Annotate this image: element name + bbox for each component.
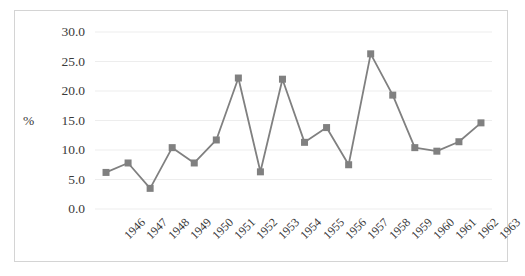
y-axis-tick-label: 10.0 (43, 143, 85, 157)
data-point-marker (103, 169, 110, 176)
chart-frame: % 0.05.010.015.020.025.030.0 19461947194… (14, 10, 508, 262)
data-point-marker (191, 159, 198, 166)
data-point-marker (279, 76, 286, 83)
data-point-marker (389, 92, 396, 99)
data-point-marker (213, 136, 220, 143)
y-axis-tick-label: 0.0 (43, 202, 85, 216)
data-point-marker (411, 144, 418, 151)
data-point-marker (235, 75, 242, 82)
y-axis-tick-label: 30.0 (43, 25, 85, 39)
data-point-marker (323, 124, 330, 131)
y-axis-tick-label: 15.0 (43, 114, 85, 128)
data-point-marker (169, 144, 176, 151)
data-point-marker (257, 168, 264, 175)
y-axis-tick-label: 25.0 (43, 55, 85, 69)
y-axis-tick-label: 5.0 (43, 173, 85, 187)
data-point-marker (477, 119, 484, 126)
data-point-marker (147, 185, 154, 192)
data-point-marker (125, 159, 132, 166)
data-point-marker (455, 138, 462, 145)
data-point-marker (433, 148, 440, 155)
data-point-marker (345, 161, 352, 168)
data-point-marker (367, 50, 374, 57)
data-point-marker (301, 139, 308, 146)
y-axis-tick-label: 20.0 (43, 84, 85, 98)
data-line-series (106, 54, 481, 189)
y-axis-title: % (23, 114, 34, 128)
